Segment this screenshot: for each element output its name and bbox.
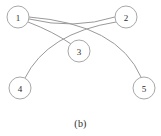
graph-node-3[interactable]: 3 xyxy=(68,40,90,62)
graph-node-1[interactable]: 1 xyxy=(7,6,29,28)
graph-node-2[interactable]: 2 xyxy=(115,6,137,28)
graph-edge-1-3 xyxy=(28,22,71,44)
figure-container: 12345 (b) xyxy=(0,0,161,136)
node-label-4: 4 xyxy=(18,84,23,94)
graph-node-4[interactable]: 4 xyxy=(9,77,31,99)
node-label-1: 1 xyxy=(16,13,21,23)
graph-diagram: 12345 xyxy=(0,0,161,136)
node-label-2: 2 xyxy=(124,13,129,23)
nodes-group: 12345 xyxy=(7,6,155,99)
graph-node-5[interactable]: 5 xyxy=(133,77,155,99)
node-label-3: 3 xyxy=(77,47,82,57)
figure-caption: (b) xyxy=(0,118,161,129)
node-label-5: 5 xyxy=(142,84,147,94)
